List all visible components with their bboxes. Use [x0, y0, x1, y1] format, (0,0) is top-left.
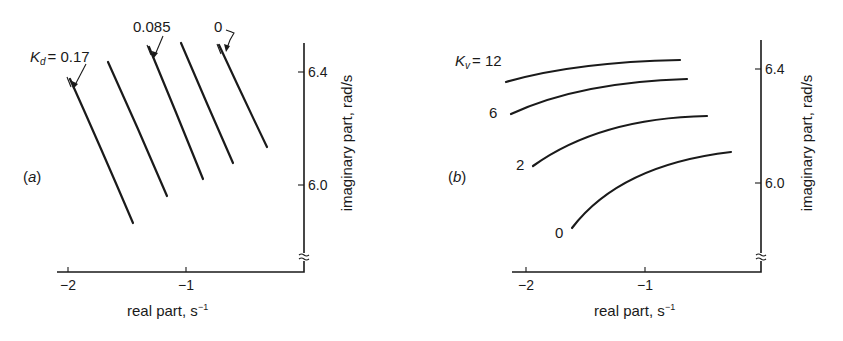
curve-kd-2 — [108, 62, 167, 196]
curve-kd-0.085 — [149, 47, 203, 179]
label-kv-2: 2 — [516, 156, 524, 173]
curve-kv-6 — [511, 79, 687, 114]
label-kv-6: 6 — [489, 104, 497, 121]
panel-a-xlabel: real part, s−1 — [127, 302, 208, 319]
panel-b-ytick-label: 6.0 — [765, 175, 785, 191]
arrow-head-icon — [152, 51, 158, 59]
panel-a-axes — [57, 43, 304, 272]
curve-kd-0.17 — [70, 79, 133, 223]
panel-a-axis-break-icon — [298, 253, 310, 261]
panel-b-ytick-label: 6.4 — [765, 61, 785, 77]
label-kv-0: 0 — [555, 224, 563, 241]
label-kd-0.085: 0.085 — [133, 18, 171, 35]
panel-b-axis-break-icon — [755, 253, 767, 261]
curve-kd-0 — [219, 45, 267, 147]
arrow-head-icon — [224, 44, 230, 52]
leader-arrow-kd-0.085 — [155, 36, 163, 55]
label-kv-12: Kv= 12 — [455, 52, 502, 71]
curve-kv-2 — [533, 116, 707, 166]
panel-a-xtick-label: −2 — [60, 277, 76, 293]
panel-a-ytick-label: 6.4 — [308, 64, 328, 80]
curve-kv-0 — [572, 152, 731, 228]
label-kd-0: 0 — [214, 18, 222, 35]
leader-arrow-kd-0.17 — [75, 64, 86, 85]
panel-b-tag: (b) — [448, 168, 466, 185]
panel-a-tag: (a) — [23, 168, 41, 185]
panel-a-xtick-label: −1 — [178, 277, 194, 293]
panel-b-xtick-label: −2 — [518, 277, 534, 293]
panel-a-ylabel: imaginary part, rad/s — [338, 75, 355, 212]
panel-b-xlabel: real part, s−1 — [594, 302, 675, 319]
panel-b: −2 −1 6.4 6.0 real part, s−1 imaginary p… — [448, 40, 815, 319]
panel-b-ylabel: imaginary part, rad/s — [798, 75, 815, 212]
panel-a: −2 −1 6.4 6.0 real part, s−1 imaginary p… — [23, 18, 355, 319]
panel-b-xtick-label: −1 — [637, 277, 653, 293]
curve-kv-12 — [506, 60, 680, 82]
label-kd-0.17: Kd= 0.17 — [30, 48, 90, 67]
figure: −2 −1 6.4 6.0 real part, s−1 imaginary p… — [0, 0, 843, 341]
panel-a-ytick-label: 6.0 — [308, 177, 328, 193]
